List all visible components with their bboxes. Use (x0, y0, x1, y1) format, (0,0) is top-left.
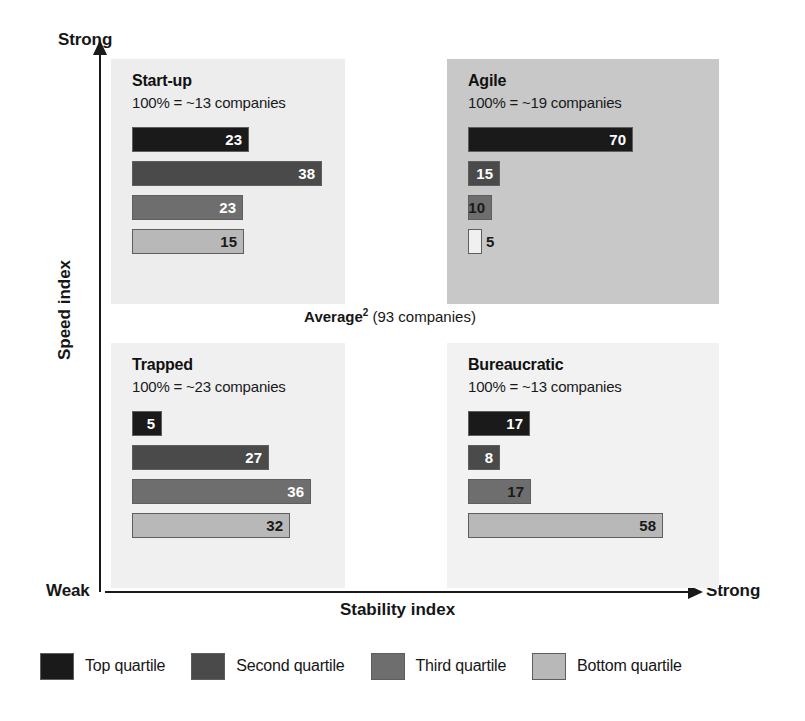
y-axis-line (99, 52, 101, 592)
bar-value-label: 8 (468, 445, 500, 470)
bar-value-label: 17 (468, 411, 530, 436)
bar-value-label: 10 (468, 195, 492, 220)
y-axis-title: Speed index (55, 240, 75, 380)
legend-label: Bottom quartile (577, 657, 682, 675)
legend: Top quartileSecond quartileThird quartil… (40, 646, 780, 686)
panel-title-startup: Start-up (132, 72, 192, 90)
x-axis-title: Stability index (105, 600, 690, 620)
panel-subtitle-startup: 100% = ~13 companies (132, 94, 286, 111)
legend-item-3: Bottom quartile (532, 653, 682, 680)
panel-bureaucratic: Bureaucratic100% = ~13 companies1781758 (447, 343, 719, 588)
bar-value-label: 17 (468, 479, 531, 504)
legend-item-2: Third quartile (371, 653, 507, 680)
legend-item-1: Second quartile (191, 653, 344, 680)
speed-stability-matrix-figure: Strong Speed index Weak Strong Stability… (0, 0, 805, 721)
panel-title-agile: Agile (468, 72, 506, 90)
bar-value-label: 38 (132, 161, 322, 186)
bar-value-label: 70 (468, 127, 633, 152)
panel-subtitle-bureaucratic: 100% = ~13 companies (468, 378, 622, 395)
bar-value-label: 58 (468, 513, 663, 538)
y-axis-high-label: Strong (58, 30, 112, 50)
bar-value-label: 23 (132, 127, 249, 152)
x-axis-low-label: Weak (46, 581, 90, 601)
panel-subtitle-trapped: 100% = ~23 companies (132, 378, 286, 395)
bar-agile-3 (468, 229, 482, 254)
panel-trapped: Trapped100% = ~23 companies5273632 (111, 343, 345, 588)
panel-startup: Start-up100% = ~13 companies23382315 (111, 59, 345, 304)
bar-value-label: 5 (486, 229, 494, 254)
panel-title-trapped: Trapped (132, 356, 193, 374)
average-annotation: Average2 (93 companies) (180, 307, 600, 325)
legend-swatch-icon (371, 653, 405, 680)
bar-value-label: 15 (468, 161, 500, 186)
legend-label: Top quartile (85, 657, 165, 675)
legend-item-0: Top quartile (40, 653, 165, 680)
bar-value-label: 15 (132, 229, 244, 254)
legend-label: Third quartile (416, 657, 507, 675)
bar-value-label: 27 (132, 445, 269, 470)
legend-swatch-icon (191, 653, 225, 680)
bar-value-label: 5 (132, 411, 162, 436)
legend-label: Second quartile (236, 657, 344, 675)
legend-swatch-icon (40, 653, 74, 680)
legend-swatch-icon (532, 653, 566, 680)
bar-value-label: 32 (132, 513, 290, 538)
bar-value-label: 23 (132, 195, 243, 220)
bar-value-label: 36 (132, 479, 311, 504)
average-count: (93 companies) (368, 308, 476, 325)
average-label: Average (304, 308, 363, 325)
panel-title-bureaucratic: Bureaucratic (468, 356, 563, 374)
x-axis-line (105, 591, 690, 593)
panel-subtitle-agile: 100% = ~19 companies (468, 94, 622, 111)
panel-agile: Agile100% = ~19 companies7015105 (447, 59, 719, 304)
